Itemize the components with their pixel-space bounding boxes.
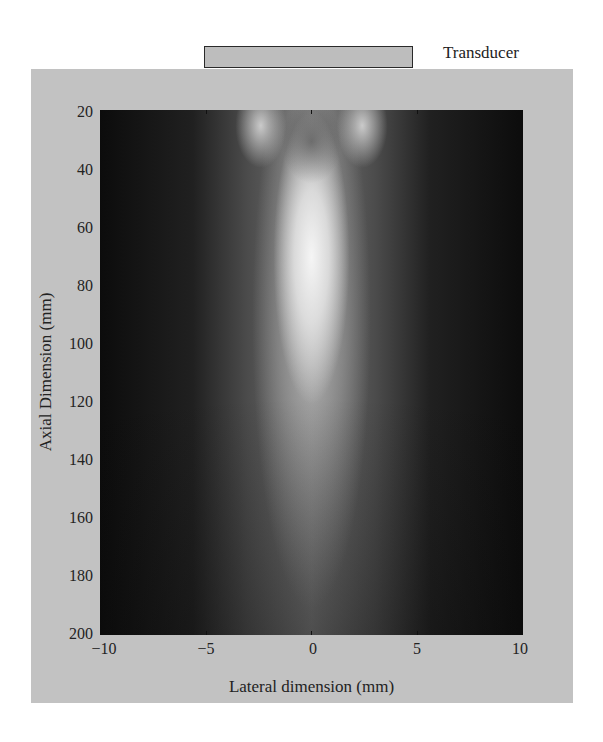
x-tick-label: 0	[293, 640, 333, 658]
x-tickmark	[417, 110, 418, 114]
y-tick-label: 180	[43, 567, 93, 585]
x-axis-label: Lateral dimension (mm)	[0, 677, 603, 697]
x-tickmark	[206, 110, 207, 114]
x-tick-label: −10	[84, 640, 124, 658]
x-tick-label: 5	[397, 640, 437, 658]
x-tickmark	[311, 110, 312, 114]
beam-intensity-heatmap	[100, 110, 523, 635]
x-tickmark	[311, 631, 312, 635]
y-tick-label: 20	[43, 103, 93, 121]
x-tick-label: 10	[500, 640, 540, 658]
transducer-label: Transducer	[443, 43, 519, 63]
transducer-rectangle	[204, 46, 413, 68]
x-tickmark	[206, 631, 207, 635]
x-tickmark	[417, 631, 418, 635]
depth-attenuation	[100, 110, 523, 635]
y-tick-label: 60	[43, 219, 93, 237]
y-axis-label: Axial Dimension (mm)	[36, 293, 56, 452]
x-tick-label: −5	[186, 640, 226, 658]
y-tick-label: 160	[43, 509, 93, 527]
y-tick-label: 140	[43, 451, 93, 469]
y-tick-label: 40	[43, 161, 93, 179]
